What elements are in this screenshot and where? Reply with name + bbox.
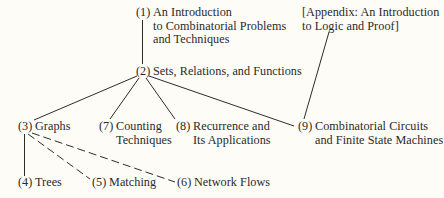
chapter-dependency-diagram: (1)An Introduction to Combinatorial Prob… bbox=[0, 0, 444, 198]
node-introduction-combinatorial: (1)An Introduction to Combinatorial Prob… bbox=[136, 6, 286, 47]
node-number: (3) bbox=[18, 120, 35, 134]
node-number: (5) bbox=[92, 176, 109, 190]
node-label-line: and Techniques bbox=[136, 33, 286, 47]
node-number: (4) bbox=[18, 176, 35, 190]
node-label-line: An Introduction bbox=[153, 5, 232, 19]
node-label-line: Graphs bbox=[35, 119, 71, 133]
node-number: (9) bbox=[298, 120, 315, 134]
node-label-line: Matching bbox=[109, 175, 156, 189]
node-label-line: Sets, Relations, and Functions bbox=[153, 64, 302, 78]
node-matching: (5)Matching bbox=[92, 176, 156, 190]
node-recurrence-applications: (8)Recurrence and Its Applications bbox=[176, 120, 271, 147]
node-trees: (4)Trees bbox=[18, 176, 62, 190]
node-counting-techniques: (7)Counting Techniques bbox=[99, 120, 172, 147]
node-sets-relations-functions: (2)Sets, Relations, and Functions bbox=[136, 65, 302, 79]
node-label-line: Counting bbox=[116, 119, 162, 133]
node-label-line: Combinatorial Circuits bbox=[315, 119, 428, 133]
edge-3-to-5 bbox=[28, 134, 90, 179]
node-number: (6) bbox=[177, 176, 194, 190]
node-label-line: Trees bbox=[35, 175, 62, 189]
node-combinatorial-circuits: (9)Combinatorial Circuits and Finite Sta… bbox=[298, 120, 443, 147]
edge-2-to-8 bbox=[146, 78, 175, 119]
node-label-line: [Appendix: An Introduction bbox=[302, 6, 439, 20]
edge-2-to-3 bbox=[34, 76, 137, 120]
edge-2-to-7 bbox=[110, 78, 139, 119]
node-label-line: and Finite State Machines bbox=[298, 134, 443, 148]
node-graphs: (3)Graphs bbox=[18, 120, 71, 134]
node-network-flows: (6)Network Flows bbox=[177, 176, 270, 190]
node-label-line: Recurrence and bbox=[193, 119, 270, 133]
edge-appendix-to-9 bbox=[304, 32, 329, 119]
node-label-line: Its Applications bbox=[176, 134, 271, 148]
node-appendix-logic-proof: [Appendix: An Introduction to Logic and … bbox=[302, 6, 439, 33]
node-number: (2) bbox=[136, 65, 153, 79]
node-label-line: to Combinatorial Problems bbox=[136, 20, 286, 34]
node-label-line: Techniques bbox=[99, 134, 172, 148]
node-label-line: to Logic and Proof] bbox=[302, 20, 439, 34]
node-number: (8) bbox=[176, 120, 193, 134]
node-number: (1) bbox=[136, 6, 153, 20]
node-label-line: Network Flows bbox=[194, 175, 270, 189]
node-number: (7) bbox=[99, 120, 116, 134]
